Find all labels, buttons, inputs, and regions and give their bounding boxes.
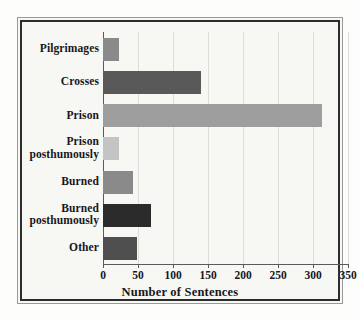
category-label-line: Other xyxy=(21,241,99,254)
category-label-line: Prison xyxy=(21,109,99,122)
bar xyxy=(103,38,119,61)
plot-area: PilgrimagesCrossesPrisonPrisonposthumous… xyxy=(103,32,348,264)
bar-row: Other xyxy=(103,231,348,264)
bar-row: Prisonposthumously xyxy=(103,131,348,164)
category-label: Pilgrimages xyxy=(21,42,99,55)
tick-label-150: 150 xyxy=(199,269,216,281)
tick-label-250: 250 xyxy=(269,269,286,281)
tickmark-200 xyxy=(243,264,244,268)
bar-row: Burnedposthumously xyxy=(103,198,348,231)
tickmark-100 xyxy=(173,264,174,268)
tick-label-300: 300 xyxy=(304,269,321,281)
category-label-line: posthumously xyxy=(21,214,99,227)
category-label: Other xyxy=(21,241,99,254)
bar xyxy=(103,137,119,160)
category-label-line: Pilgrimages xyxy=(21,42,99,55)
category-label-line: Crosses xyxy=(21,75,99,88)
bar-row: Pilgrimages xyxy=(103,32,348,65)
figure-bar-chart-sentences: PilgrimagesCrossesPrisonPrisonposthumous… xyxy=(0,0,359,320)
tickmark-350 xyxy=(348,264,349,268)
bar-row: Crosses xyxy=(103,65,348,98)
gridline-350 xyxy=(348,32,349,264)
bar xyxy=(103,204,151,227)
tick-label-100: 100 xyxy=(164,269,181,281)
category-label-line: Prison xyxy=(21,135,99,148)
tick-label-200: 200 xyxy=(234,269,251,281)
tick-label-0: 0 xyxy=(100,269,106,281)
category-label: Burnedposthumously xyxy=(21,202,99,227)
tickmark-250 xyxy=(278,264,279,268)
category-label: Burned xyxy=(21,175,99,188)
tick-label-50: 50 xyxy=(132,269,144,281)
plot-wrapper: PilgrimagesCrossesPrisonPrisonposthumous… xyxy=(22,22,338,299)
bar xyxy=(103,237,137,260)
tickmark-300 xyxy=(313,264,314,268)
bar xyxy=(103,71,201,94)
bar xyxy=(103,104,322,127)
category-label-line: posthumously xyxy=(21,148,99,161)
x-axis-title: Number of Sentences xyxy=(22,285,338,300)
bar-row: Burned xyxy=(103,165,348,198)
tickmark-150 xyxy=(208,264,209,268)
tickmark-0 xyxy=(103,264,104,268)
bar xyxy=(103,171,133,194)
tick-label-350: 350 xyxy=(339,269,356,281)
category-label: Prison xyxy=(21,109,99,122)
tickmark-50 xyxy=(138,264,139,268)
category-label-line: Burned xyxy=(21,202,99,215)
bar-row: Prison xyxy=(103,98,348,131)
category-label: Prisonposthumously xyxy=(21,135,99,160)
category-label-line: Burned xyxy=(21,175,99,188)
category-label: Crosses xyxy=(21,75,99,88)
